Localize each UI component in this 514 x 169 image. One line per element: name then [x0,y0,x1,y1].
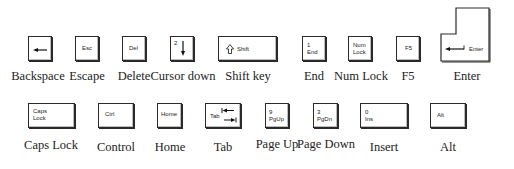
backspace-key [28,36,52,61]
caps-lock-key: Caps Lock [28,103,75,128]
shift-caption: Shift key [225,69,270,84]
num-lock-key: Num Lock [348,36,372,61]
page-up-caption: Page Up [256,137,299,152]
alt-key: Alt [430,103,466,128]
tab-arrows-icon [221,108,237,123]
down-arrow-icon [181,41,185,56]
caps-lock-legend: Caps Lock [33,108,47,122]
page-down-caption: Page Down [297,137,355,152]
enter-caption: Enter [453,69,480,84]
control-key: Ctrl [98,103,134,128]
delete-key: Del [122,36,146,61]
delete-legend: Del [129,45,138,52]
control-caption: Control [97,140,135,155]
shift-arrow-icon [226,44,234,54]
shift-legend: Shift [237,46,249,53]
caps-lock-caption: Caps Lock [24,138,78,153]
home-key: Home [157,103,182,128]
left-arrow-icon [33,48,47,52]
page-down-key: 3 PgDn [313,103,338,128]
enter-key [440,7,492,63]
f5-key: F5 [396,36,420,61]
f5-legend: F5 [405,45,412,52]
tab-legend: Tab [210,113,220,120]
page-up-legend: 9 PgUp [269,109,284,123]
end-caption: End [304,69,324,84]
insert-legend: 0 Ins [365,109,373,123]
cursor-down-key: 2 [170,36,194,61]
alt-caption: Alt [440,140,456,155]
escape-legend: Esc [82,45,92,52]
tab-caption: Tab [214,140,233,155]
delete-caption: Delete [118,69,151,84]
home-legend: Home [161,111,177,118]
escape-key: Esc [75,36,99,61]
page-up-key: 9 PgUp [265,103,289,128]
insert-caption: Insert [370,140,398,155]
cursor-down-legend: 2 [174,40,177,47]
backspace-caption: Backspace [11,69,64,84]
shift-key: Shift [218,36,277,61]
control-legend: Ctrl [105,111,114,118]
page-down-legend: 3 PgDn [317,109,332,123]
num-lock-legend: Num Lock [353,42,366,56]
enter-legend: Enter [469,46,483,52]
end-legend: 1 End [307,42,318,56]
f5-caption: F5 [401,69,414,84]
alt-legend: Alt [437,112,444,119]
end-key: 1 End [302,36,326,61]
cursor-down-caption: Cursor down [151,69,216,84]
tab-key: Tab [205,103,241,128]
num-lock-caption: Num Lock [334,69,388,84]
insert-key: 0 Ins [360,103,408,128]
escape-caption: Escape [69,69,104,84]
home-caption: Home [155,140,186,155]
